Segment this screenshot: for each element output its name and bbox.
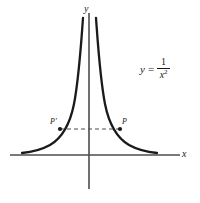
y-axis-label: y [84, 4, 88, 14]
x-axis-label: x [182, 149, 186, 159]
equation-denominator-exponent: 2 [164, 68, 168, 76]
point-label-p-prime: P' [50, 118, 57, 126]
curve-left-branch [22, 18, 83, 153]
figure-container: y x P' P y = 1 x2 [0, 0, 200, 203]
point-marker-p [118, 127, 122, 131]
equation-fraction: 1 x2 [157, 57, 170, 80]
equation-left-hand-side: y [140, 63, 145, 75]
equation-equals-sign: = [148, 63, 154, 75]
equation-label: y = 1 x2 [140, 57, 170, 80]
graph-canvas [0, 0, 200, 203]
equation-denominator: x2 [158, 69, 170, 80]
curve-right-branch [96, 18, 157, 153]
point-label-p: P [122, 118, 127, 126]
point-marker-p-prime [58, 127, 62, 131]
equation-numerator: 1 [159, 57, 168, 68]
